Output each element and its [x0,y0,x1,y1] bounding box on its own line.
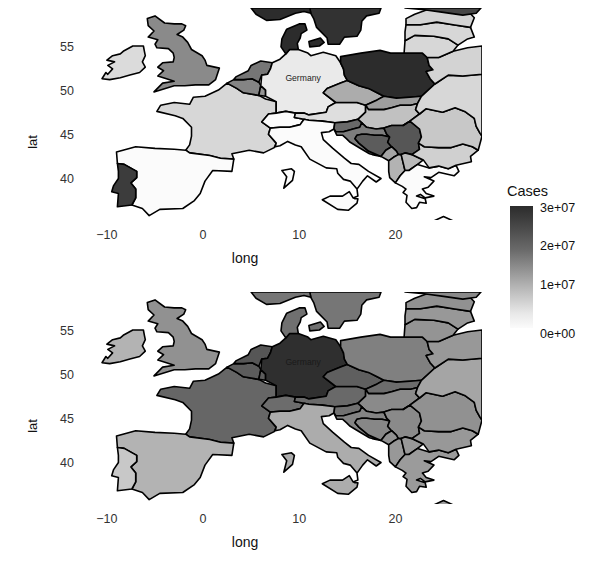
y-tick-55: 55 [40,40,74,54]
x-tick-10: 10 [279,512,319,526]
y-axis-label-top: lat [25,135,40,149]
x-axis-label-top: long [0,250,490,266]
y-tick-50: 50 [40,368,74,382]
legend-title: Cases [507,183,548,199]
legend: Cases 3e+072e+071e+070e+00 [490,0,608,568]
y-axis-label-bottom: lat [25,419,40,433]
x-axis-label-bottom: long [0,534,490,550]
map-plot-area-top[interactable]: Germany [78,8,482,220]
y-tick-55: 55 [40,324,74,338]
x-tick-10: 10 [279,228,319,242]
legend-tick-1e+07: 1e+07 [540,278,575,292]
germany-annotation-label: Germany [285,357,321,367]
legend-gradient-bar [510,206,533,328]
map-panel-top: Germany lat long 55504540 −1001020 [0,0,490,284]
x-tick--10: −10 [87,228,127,242]
legend-tick-0e+00: 0e+00 [540,327,575,341]
x-tick-20: 20 [375,228,415,242]
europe-map-bottom[interactable]: Germany [78,292,482,504]
legend-tick-3e+07: 3e+07 [540,201,575,215]
legend-tick-2e+07: 2e+07 [540,239,575,253]
y-tick-45: 45 [40,412,74,426]
y-tick-40: 40 [40,456,74,470]
x-tick--10: −10 [87,512,127,526]
x-tick-0: 0 [183,228,223,242]
map-panel-bottom: Germany lat long 55504540 −1001020 [0,284,490,568]
map-plot-area-bottom[interactable]: Germany [78,292,482,504]
germany-annotation-label: Germany [285,73,321,83]
y-tick-50: 50 [40,84,74,98]
europe-map-top[interactable]: Germany [78,8,482,220]
y-tick-40: 40 [40,172,74,186]
x-tick-0: 0 [183,512,223,526]
x-tick-20: 20 [375,512,415,526]
y-tick-45: 45 [40,128,74,142]
